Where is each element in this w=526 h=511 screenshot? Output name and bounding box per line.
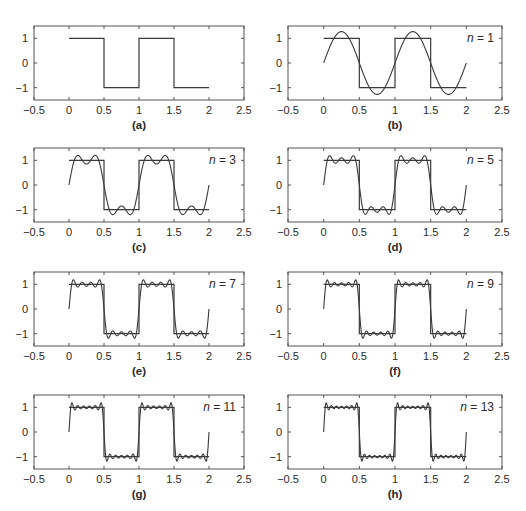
- x-tick-label: 1: [136, 473, 142, 485]
- x-tick-label: 0.5: [96, 104, 111, 116]
- x-tick-label: 0: [321, 226, 327, 238]
- x-tick-label: 1.5: [166, 473, 181, 485]
- x-tick-label: 2.5: [236, 226, 251, 238]
- x-tick-label: 1.5: [166, 350, 181, 362]
- x-tick-label: 1: [392, 104, 398, 116]
- x-tick-label: 1.5: [423, 104, 438, 116]
- panel-label: (e): [132, 365, 146, 377]
- subplot-g: −0.500.511.522.510−1n = 11(g): [15, 395, 251, 500]
- x-tick-label: 1.5: [423, 350, 438, 362]
- x-tick-label: 0: [66, 226, 72, 238]
- y-tick-label: 1: [22, 154, 28, 166]
- subplot-h: −0.500.511.522.510−1n = 13(h): [269, 395, 509, 500]
- x-tick-label: 0.5: [352, 350, 367, 362]
- y-tick-label: 0: [22, 426, 28, 438]
- x-tick-label: 0.5: [352, 104, 367, 116]
- subplot-f: −0.500.511.522.510−1n = 9(f): [269, 272, 509, 377]
- x-tick-label: 0: [66, 350, 72, 362]
- y-tick-label: 1: [22, 32, 28, 44]
- x-tick-label: 2.5: [236, 473, 251, 485]
- y-tick-label: −1: [15, 82, 28, 94]
- subplot-a: −0.500.511.522.510−1(a): [15, 26, 251, 131]
- x-tick-label: −0.5: [277, 226, 299, 238]
- x-tick-label: −0.5: [277, 350, 299, 362]
- x-tick-label: 0: [321, 473, 327, 485]
- x-tick-label: 1: [392, 350, 398, 362]
- subplot-e: −0.500.511.522.510−1n = 7(e): [15, 272, 251, 377]
- y-tick-label: 0: [276, 426, 282, 438]
- y-tick-label: 1: [276, 32, 282, 44]
- x-tick-label: 2.5: [494, 473, 509, 485]
- x-tick-label: 0.5: [352, 473, 367, 485]
- y-tick-label: 1: [276, 401, 282, 413]
- fourier-figure: −0.500.511.522.510−1(a)−0.500.511.522.51…: [0, 0, 526, 511]
- x-tick-label: 2.5: [494, 350, 509, 362]
- x-tick-label: 0: [321, 104, 327, 116]
- x-tick-label: 2: [206, 104, 212, 116]
- x-tick-label: 1.5: [423, 473, 438, 485]
- x-tick-label: 1: [392, 226, 398, 238]
- figure-canvas: −0.500.511.522.510−1(a)−0.500.511.522.51…: [0, 0, 526, 511]
- n-label: n = 9: [467, 277, 494, 291]
- x-tick-label: 2: [463, 350, 469, 362]
- subplot-d: −0.500.511.522.510−1n = 5(d): [269, 148, 509, 253]
- panel-label: (h): [388, 488, 403, 500]
- x-tick-label: 2: [463, 104, 469, 116]
- y-tick-label: 1: [22, 401, 28, 413]
- panel-label: (d): [388, 241, 403, 253]
- y-tick-label: 0: [276, 179, 282, 191]
- x-tick-label: −0.5: [23, 226, 45, 238]
- x-tick-label: 1: [136, 104, 142, 116]
- x-tick-label: 0.5: [96, 473, 111, 485]
- x-tick-label: 0: [66, 104, 72, 116]
- x-tick-label: 1.5: [423, 226, 438, 238]
- x-tick-label: 1.5: [166, 104, 181, 116]
- square-wave-line: [69, 38, 209, 87]
- y-tick-label: 0: [276, 303, 282, 315]
- n-label: n = 7: [209, 277, 236, 291]
- panel-label: (g): [132, 488, 147, 500]
- x-tick-label: 2.5: [236, 350, 251, 362]
- x-tick-label: 0: [321, 350, 327, 362]
- x-tick-label: 2.5: [494, 226, 509, 238]
- y-tick-label: 0: [276, 57, 282, 69]
- y-tick-label: 1: [276, 154, 282, 166]
- x-tick-label: 2: [206, 473, 212, 485]
- y-tick-label: 0: [22, 179, 28, 191]
- x-tick-label: 1: [136, 350, 142, 362]
- x-tick-label: 2: [206, 226, 212, 238]
- x-tick-label: −0.5: [277, 473, 299, 485]
- x-tick-label: −0.5: [23, 350, 45, 362]
- n-label: n = 3: [209, 153, 236, 167]
- y-tick-label: −1: [15, 328, 28, 340]
- x-tick-label: 1: [392, 473, 398, 485]
- x-tick-label: 0.5: [96, 350, 111, 362]
- x-tick-label: 0.5: [96, 226, 111, 238]
- x-tick-label: 2: [463, 226, 469, 238]
- panel-label: (f): [389, 365, 401, 377]
- panel-label: (b): [388, 119, 403, 131]
- y-tick-label: 1: [22, 278, 28, 290]
- y-tick-label: −1: [269, 204, 282, 216]
- x-tick-label: 0: [66, 473, 72, 485]
- y-tick-label: 0: [22, 57, 28, 69]
- subplot-c: −0.500.511.522.510−1n = 3(c): [15, 148, 251, 253]
- panel-label: (a): [132, 119, 146, 131]
- y-tick-label: 1: [276, 278, 282, 290]
- x-tick-label: 1.5: [166, 226, 181, 238]
- x-tick-label: 1: [136, 226, 142, 238]
- n-label: n = 5: [467, 153, 494, 167]
- x-tick-label: −0.5: [23, 473, 45, 485]
- x-tick-label: −0.5: [23, 104, 45, 116]
- x-tick-label: 2.5: [236, 104, 251, 116]
- x-tick-label: 2.5: [494, 104, 509, 116]
- n-label: n = 13: [460, 400, 494, 414]
- n-label: n = 11: [203, 400, 236, 414]
- panel-label: (c): [132, 241, 146, 253]
- x-tick-label: 2: [463, 473, 469, 485]
- x-tick-label: 0.5: [352, 226, 367, 238]
- y-tick-label: −1: [269, 451, 282, 463]
- y-tick-label: −1: [15, 451, 28, 463]
- y-tick-label: −1: [269, 82, 282, 94]
- y-tick-label: −1: [269, 328, 282, 340]
